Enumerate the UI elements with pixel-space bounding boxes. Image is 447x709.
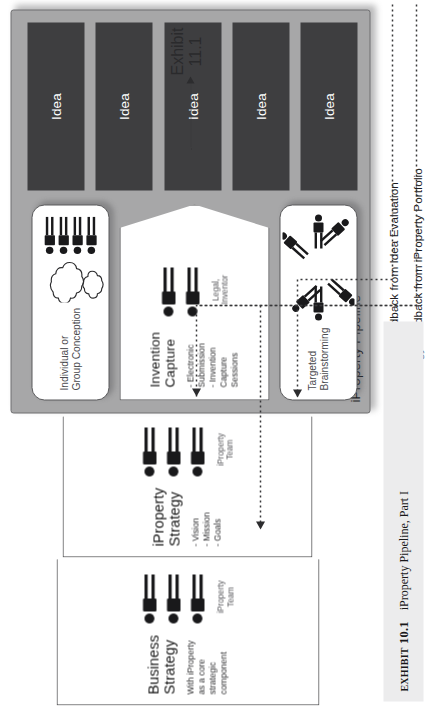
idea-box: Idea (232, 22, 289, 190)
invention-capture-bullet-4: Capture (218, 331, 229, 387)
exhibit-ref-line2: 11.1 (186, 27, 204, 75)
exhibit-reference: Exhibit 11.1 (168, 27, 204, 75)
business-strategy-body-line1: With iProperty (185, 634, 196, 694)
invention-capture-bullet-3: - Invention (207, 331, 218, 387)
box-individual-group-conception: Individual or Group Conception (31, 204, 109, 400)
idea-box: Idea (95, 22, 152, 190)
figure-caption: Exhibit 10.1 iProperty Pipeline, Part I (383, 321, 423, 701)
iproperty-strategy-bullet-2: - Mission (201, 487, 212, 546)
invention-capture-bullet-5: Sessions (229, 331, 240, 387)
figure-caption-number-prefix: Exhibit (398, 647, 409, 691)
box-targeted-brainstorming: Targeted Brainstorming (279, 204, 357, 400)
iproperty-strategy-bullet-1: - Vision (190, 487, 201, 546)
business-strategy-title-line1: Business (146, 634, 162, 694)
figure-caption-number-value: 10.1 (396, 621, 410, 644)
invention-capture-bullet-1: - Electronic (185, 331, 196, 387)
brainstorming-radial-people-icon (282, 212, 354, 322)
conception-title-line1: Individual or (58, 307, 70, 390)
exhibit-ref-line1: Exhibit (168, 27, 186, 75)
box-invention-capture: Invention Capture - Electronic Submissio… (119, 204, 269, 400)
people-group-icon (140, 421, 214, 477)
business-strategy-title-line2: Strategy (162, 634, 178, 694)
brainstorming-title-line1: Targeted (306, 327, 318, 390)
idea-box: Idea (300, 22, 357, 190)
business-strategy-people-caption: iProperty Team (216, 580, 235, 613)
brainstorming-title-line2: Brainstorming (318, 327, 330, 390)
idea-box: Idea (27, 22, 84, 190)
people-group-icon (159, 261, 209, 317)
invention-capture-bullet-2: Submission (196, 331, 207, 387)
business-strategy-body-line3: strategic (207, 634, 218, 694)
people-group-icon (140, 568, 214, 624)
iproperty-strategy-bullet-3: - Goals (212, 487, 223, 546)
iproperty-strategy-title-line2: Strategy (167, 487, 183, 546)
invention-capture-title-line2: Capture (163, 331, 178, 387)
stage-iproperty-strategy: iProperty Strategy - Vision - Mission - … (62, 397, 312, 557)
connector-idea-to-exhibit-arrow-icon (186, 76, 194, 83)
conception-clouds-people-icon (36, 205, 104, 302)
stage-business-strategy: Business Strategy With iProperty as a co… (56, 539, 319, 705)
iproperty-strategy-people-caption: iProperty Team (216, 433, 235, 466)
conception-title-line2: Group Conception (70, 307, 82, 390)
iproperty-strategy-title-line1: iProperty (151, 487, 167, 546)
business-strategy-body-line2: as a core (196, 634, 207, 694)
invention-capture-people-caption: Legal, Inventor (211, 275, 230, 305)
connector-idea-to-exhibit (190, 81, 191, 149)
diagram-canvas: Business Strategy With iProperty as a co… (0, 0, 383, 709)
figure-caption-number: Exhibit 10.1 (396, 621, 411, 691)
figure-stage: Business Strategy With iProperty as a co… (0, 0, 447, 709)
figure-caption-text: iProperty Pipeline, Part I (396, 490, 411, 609)
business-strategy-body-line4: component (218, 634, 229, 694)
invention-capture-title-line1: Invention (148, 331, 163, 387)
